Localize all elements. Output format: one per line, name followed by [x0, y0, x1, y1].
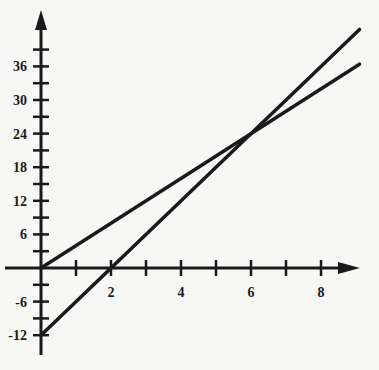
y-tick-label: -12	[8, 328, 27, 343]
x-tick-label: 8	[318, 285, 325, 300]
data-lines	[41, 29, 360, 335]
y-tick-label: 30	[13, 93, 27, 108]
y-tick-label: -6	[15, 295, 27, 310]
x-tick-label: 6	[248, 285, 255, 300]
axes	[5, 10, 360, 355]
data-line	[41, 29, 360, 335]
y-axis-arrow-icon	[35, 10, 47, 30]
x-axis-arrow-icon	[338, 262, 360, 274]
y-tick-label: 36	[13, 59, 27, 74]
y-tick-label: 12	[13, 194, 27, 209]
data-line	[41, 64, 360, 268]
y-tick-label: 6	[20, 227, 27, 242]
y-tick-label: 24	[13, 127, 27, 142]
x-tick-label: 4	[178, 285, 185, 300]
x-tick-label: 2	[108, 285, 115, 300]
y-tick-label: 18	[13, 160, 27, 175]
line-chart: 36302418126-6-122468	[0, 0, 379, 370]
tick-labels: 36302418126-6-122468	[8, 59, 324, 343]
